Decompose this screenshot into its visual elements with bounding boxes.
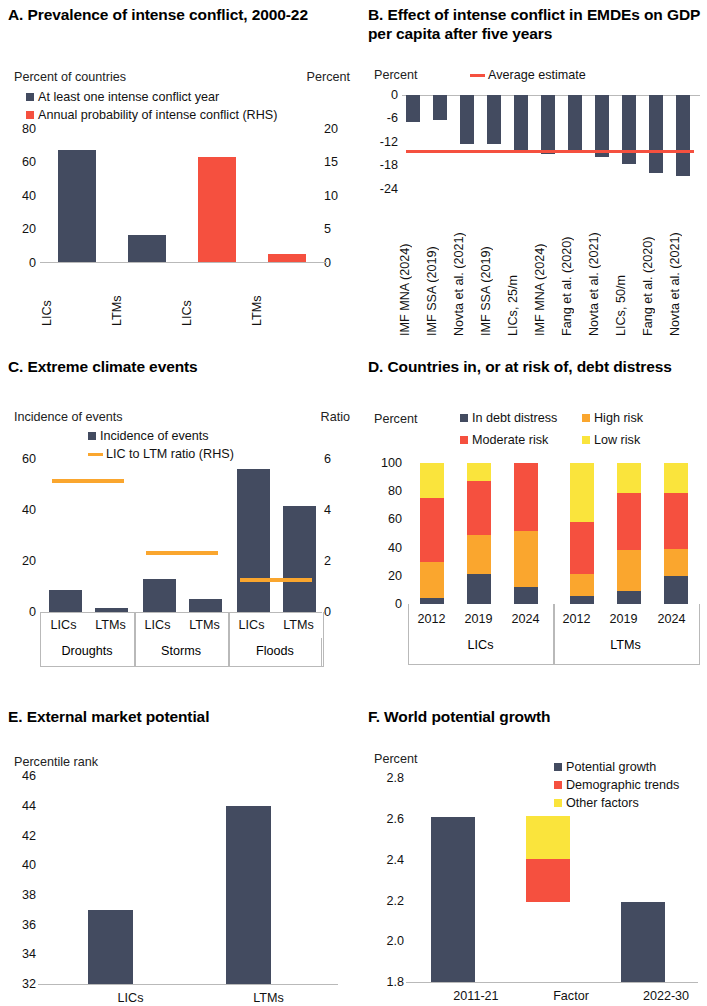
- panel-e-axis-line: [38, 984, 338, 985]
- seg-high-risk: [664, 549, 688, 576]
- panel-d-ytick-3: 40: [360, 541, 402, 555]
- bar-estimate-2: [460, 95, 474, 144]
- panel-a-legend-label-0: At least one intense conflict year: [38, 90, 219, 104]
- panel-d-group-label-1: LTMs: [553, 638, 698, 652]
- seg-moderate-risk: [570, 522, 594, 574]
- panel-f-xcat-2: 2022-30: [621, 989, 707, 1003]
- panel-f-ytick-5: 1.8: [360, 975, 404, 989]
- panel-c-title: C. Extreme climate events: [8, 358, 338, 377]
- panel-c-legend-item-0: Incidence of events: [88, 429, 209, 443]
- bar-estimate-8: [622, 95, 636, 164]
- panel-c-left-axis-label: Incidence of events: [14, 410, 123, 424]
- panel-e-ytick-0: 46: [0, 769, 36, 783]
- seg-high-risk: [617, 550, 641, 591]
- panel-c-ytick-1: 40: [0, 503, 36, 517]
- seg-low-risk: [664, 463, 688, 493]
- panel-e-ytick-2: 42: [0, 829, 36, 843]
- bar-estimate-1: [433, 95, 447, 120]
- bar-estimate-7: [595, 95, 609, 157]
- seg-high-risk: [467, 535, 491, 575]
- figure-grid: A. Prevalence of intense conflict, 2000-…: [0, 0, 707, 1006]
- panel-c-ytick-0: 60: [0, 452, 36, 466]
- legend-swatch-icon: [460, 414, 468, 422]
- bar-estimate-6: [568, 95, 582, 153]
- panel-a-left-axis-label: Percent of countries: [14, 70, 126, 84]
- panel-d-legend-label-0: In debt distress: [472, 411, 557, 425]
- panel-a-xcat-1: LTMs: [110, 268, 148, 326]
- panel-a-ytick-0: 80: [0, 122, 36, 136]
- legend-line-icon: [88, 453, 103, 456]
- panel-f-ytick-3: 2.2: [360, 894, 404, 908]
- panel-f-xcat-1: Factor: [526, 989, 616, 1003]
- seg-low-risk: [467, 463, 491, 481]
- panel-f-title: F. World potential growth: [368, 708, 698, 727]
- panel-b-ytick-4: -24: [360, 182, 398, 196]
- panel-b: B. Effect of intense conflict in EMDEs o…: [360, 0, 707, 340]
- seg-low-risk: [420, 463, 444, 498]
- panel-e-ytick-3: 40: [0, 858, 36, 872]
- bar-storms-lics: [143, 579, 176, 612]
- bar-potential-growth-2022-30: [621, 902, 665, 982]
- panel-f-ytick-2: 2.4: [360, 853, 404, 867]
- legend-swatch-icon: [460, 436, 468, 444]
- bar-storms-ltms: [189, 599, 222, 612]
- panel-e-ytick-4: 38: [0, 888, 36, 902]
- panel-b-legend-item-0: Average estimate: [470, 68, 586, 82]
- panel-d-legend-label-1: High risk: [594, 411, 643, 425]
- panel-c-axis-line: [40, 612, 322, 613]
- legend-swatch-icon: [26, 93, 34, 101]
- panel-a-y2tick-0: 20: [324, 122, 358, 136]
- bar-floods-ltms: [283, 506, 316, 612]
- panel-a-legend-item-0: At least one intense conflict year: [26, 90, 219, 104]
- panel-d-left-axis-label: Percent: [374, 412, 417, 426]
- panel-b-xcat-1: IMF SSA (2019): [425, 196, 447, 336]
- bar-estimate-0: [406, 95, 420, 122]
- panel-b-xcat-3: IMF SSA (2019): [479, 196, 501, 336]
- panel-b-ytick-0: 0: [360, 88, 398, 102]
- panel-c-y2tick-2: 2: [324, 554, 358, 568]
- panel-a-ytick-4: 0: [0, 256, 36, 270]
- panel-c-xcat-0: LICs: [40, 618, 87, 632]
- seg-in-debt-distress: [570, 596, 594, 605]
- seg-high-risk: [420, 562, 444, 599]
- bar-demographic-trends-factor: [526, 859, 570, 902]
- panel-b-xcat-4: LICs, 25/m: [506, 196, 528, 336]
- panel-a-ytick-2: 40: [0, 189, 36, 203]
- panel-a-y2tick-3: 5: [324, 222, 358, 236]
- panel-a-xcat-2: LICs: [180, 268, 218, 326]
- seg-in-debt-distress: [664, 576, 688, 604]
- panel-d-xcat-2: 2024: [502, 612, 549, 626]
- stack-ltms-2019: [617, 463, 641, 604]
- panel-c-xcat-3: LTMs: [181, 618, 228, 632]
- panel-d-ytick-1: 80: [360, 484, 402, 498]
- bar-ltms-conflict-year: [128, 235, 166, 262]
- bar-other-factors-factor: [526, 816, 570, 859]
- panel-b-xcat-2: Novta et al. (2021): [452, 196, 474, 336]
- panel-c-legend-label-0: Incidence of events: [100, 429, 209, 443]
- panel-f-ytick-4: 2.0: [360, 934, 404, 948]
- panel-b-xcat-9: Fang et al. (2020): [641, 196, 663, 336]
- panel-e-ytick-6: 34: [0, 947, 36, 961]
- panel-b-xcat-10: Novta et al. (2021): [668, 196, 690, 336]
- legend-swatch-icon: [582, 436, 590, 444]
- bar-lics-annual-probability: [198, 157, 236, 262]
- panel-e-ytick-1: 44: [0, 799, 36, 813]
- panel-f-legend-item-0: Potential growth: [554, 760, 656, 774]
- panel-b-xcat-8: LICs, 50/m: [614, 196, 636, 336]
- bar-ltms-external-market-potential: [226, 806, 271, 984]
- panel-d-legend-item-0: In debt distress: [460, 411, 557, 425]
- panel-a-legend-label-1: Annual probability of intense conflict (…: [38, 108, 277, 122]
- panel-f-legend-label-0: Potential growth: [566, 760, 656, 774]
- seg-high-risk: [570, 574, 594, 595]
- seg-moderate-risk: [467, 481, 491, 535]
- panel-d-ytick-0: 100: [360, 456, 402, 470]
- panel-e-title: E. External market potential: [8, 708, 338, 727]
- panel-f-plot: [408, 778, 698, 982]
- panel-f-axis-line: [406, 982, 698, 983]
- panel-e-ytick-5: 36: [0, 918, 36, 932]
- panel-a-y2tick-1: 15: [324, 155, 358, 169]
- stack-lics-2019: [467, 463, 491, 604]
- panel-d-xcat-5: 2024: [648, 612, 695, 626]
- panel-a-xcat-0: LICs: [40, 268, 78, 326]
- panel-b-average-estimate-line: [406, 150, 694, 153]
